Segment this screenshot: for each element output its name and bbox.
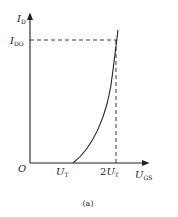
x-axis-label: UGS [135,169,152,181]
ido-label: IDO [9,35,24,47]
figure-caption: (a) [82,199,93,208]
transfer-curve [73,30,118,163]
origin-label: O [18,163,26,174]
y-axis-label: ID [16,13,26,25]
two-ut-label: 2UT [100,166,119,178]
transfer-characteristic-diagram: ID IDO O UT 2UT UGS (a) [0,0,178,217]
ut-label: UT [56,166,68,178]
